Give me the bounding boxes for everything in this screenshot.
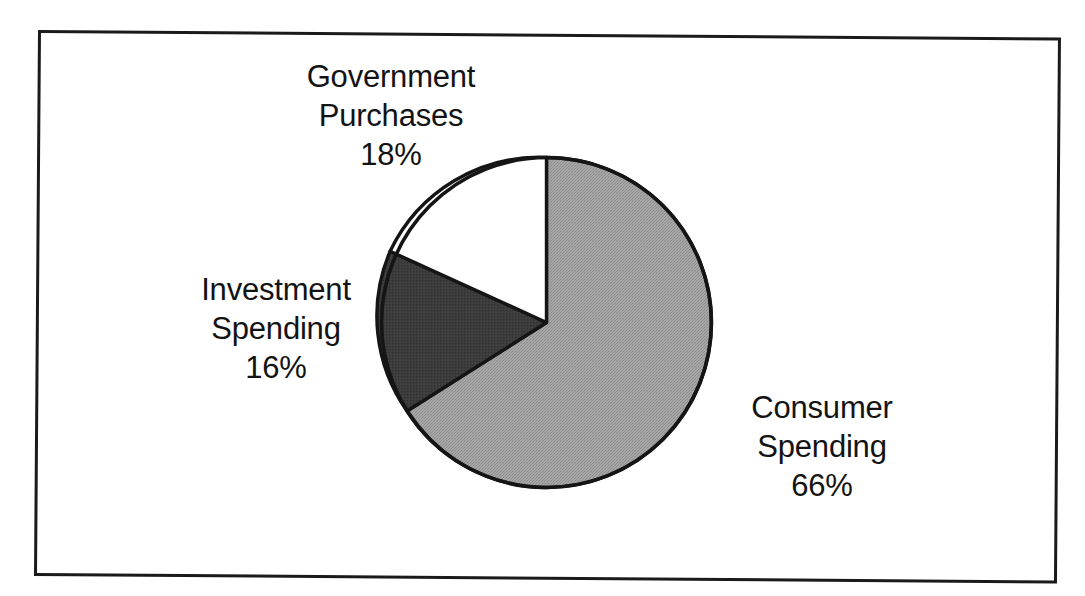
slice-label-government-purchases: Government Purchases 18% [258,57,524,174]
slice-label-investment-spending: Investment Spending 16% [140,270,412,387]
scanned-page: ... [0,0,1085,596]
pie-chart: Government Purchases 18% Investment Spen… [0,0,1085,596]
pie-svg [374,150,719,495]
slice-label-consumer-spending: Consumer Spending 66% [688,388,956,505]
